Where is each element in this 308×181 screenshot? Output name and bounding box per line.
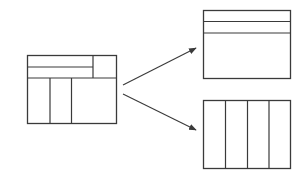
target-columns-layout <box>204 101 291 169</box>
arrow-to-rows-layout <box>123 48 196 85</box>
rows-outer-frame <box>204 11 291 79</box>
layout-split-diagram <box>0 0 308 181</box>
source-combined-layout <box>28 56 117 124</box>
arrow-to-columns-layout <box>123 94 196 130</box>
target-rows-layout <box>204 11 291 79</box>
